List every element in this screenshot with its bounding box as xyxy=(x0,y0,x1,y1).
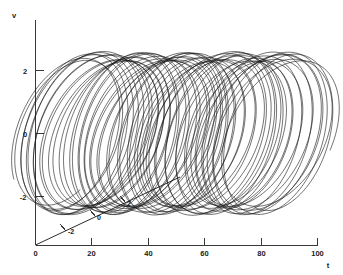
v-tick-label-neg2: -2 xyxy=(20,193,27,202)
t-tick-label-20: 20 xyxy=(87,249,95,258)
plot-canvas: 2 0 -2 0 20 40 60 80 100 -2 0 2 v t xyxy=(0,0,343,275)
phase-plot-figure: 2 0 -2 0 20 40 60 80 100 -2 0 2 v t xyxy=(0,0,343,275)
depth-tick-neg2 xyxy=(60,224,66,231)
depth-tick-0 xyxy=(90,210,96,217)
t-tick-label-80: 80 xyxy=(257,249,265,258)
trajectory-path xyxy=(15,52,340,216)
t-tick-label-0: 0 xyxy=(33,249,37,258)
t-axis-title: t xyxy=(327,261,330,270)
depth-tick-label-2: 2 xyxy=(127,200,131,207)
t-tick-label-100: 100 xyxy=(311,249,324,258)
t-tick-label-60: 60 xyxy=(200,249,208,258)
v-tick-label-0: 0 xyxy=(23,130,27,139)
v-tick-label-2: 2 xyxy=(23,67,27,76)
t-tick-label-40: 40 xyxy=(144,249,152,258)
v-axis-title: v xyxy=(12,11,17,20)
depth-tick-label-0: 0 xyxy=(97,214,101,221)
depth-tick-label-neg2: -2 xyxy=(68,228,74,235)
trajectory-curves xyxy=(12,52,340,216)
